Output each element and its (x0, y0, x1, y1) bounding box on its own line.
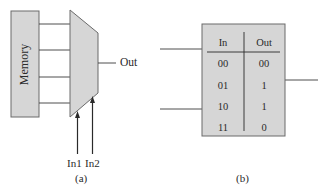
out-label: Out (120, 57, 137, 69)
table-header-out: Out (247, 37, 281, 48)
in2-arrow-icon (90, 96, 95, 154)
diagram-canvas (0, 0, 318, 189)
table-cell-in: 10 (206, 101, 240, 112)
table-cell-in: 11 (206, 122, 240, 133)
table-cell-out: 00 (247, 58, 281, 69)
caption-b: (b) (236, 173, 249, 184)
table-header-in: In (206, 37, 240, 48)
in2-label: In2 (85, 158, 100, 169)
table-cell-in: 01 (206, 80, 240, 91)
in1-arrow-icon (75, 111, 80, 154)
table-cell-out: 1 (247, 80, 281, 91)
table-cell-out: 0 (247, 122, 281, 133)
in1-label: In1 (67, 158, 82, 169)
memory-mux-lines (39, 24, 70, 103)
memory-label: Memory (18, 43, 33, 84)
memory-label-wrap: Memory (11, 11, 39, 117)
table-cell-in: 00 (206, 58, 240, 69)
caption-a: (a) (75, 173, 87, 184)
table-cell-out: 1 (247, 101, 281, 112)
